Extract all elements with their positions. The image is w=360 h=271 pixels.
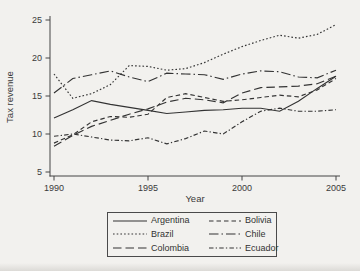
legend-item-bolivia: Bolivia [209,216,281,225]
legend-swatch-chile [209,230,241,238]
series-line-chile [54,70,336,93]
legend-swatch-brazil [113,230,147,238]
legend-swatch-ecuador [209,244,241,252]
x-axis-ticks: 1990199520002005 [44,176,346,193]
legend-item-chile: Chile [209,230,281,239]
y-tick-label: 25 [32,15,42,25]
series-line-argentina [54,76,336,118]
legend-swatch-bolivia [209,217,241,225]
x-tick-label: 2000 [232,183,252,193]
legend-label-brazil: Brazil [151,230,174,239]
legend-label-chile: Chile [245,230,266,239]
y-tick-label: 10 [32,129,42,139]
legend-swatch-colombia [113,244,147,252]
x-tick-label: 1995 [138,183,158,193]
tax-revenue-chart: 510152025 1990199520002005 Tax revenue Y… [0,0,360,210]
legend-item-brazil: Brazil [113,230,209,239]
scan-shadow [0,263,360,271]
legend-swatch-argentina [113,217,147,225]
x-tick-label: 2005 [326,183,346,193]
y-tick-label: 5 [37,167,42,177]
y-axis-title: Tax revenue [4,71,15,123]
legend: Argentina Brazil Colombia Bolivia Chile [107,212,277,257]
legend-label-ecuador: Ecuador [245,244,279,253]
legend-label-argentina: Argentina [151,216,190,225]
legend-item-ecuador: Ecuador [209,244,281,253]
y-axis-ticks: 510152025 [32,15,50,177]
series-line-ecuador [54,108,336,144]
legend-item-argentina: Argentina [113,216,209,225]
legend-label-colombia: Colombia [151,244,189,253]
y-tick-label: 15 [32,91,42,101]
legend-item-colombia: Colombia [113,244,209,253]
scanned-line-chart-figure: 510152025 1990199520002005 Tax revenue Y… [0,0,360,271]
y-tick-label: 20 [32,53,42,63]
series-lines [54,25,336,147]
x-tick-label: 1990 [44,183,64,193]
x-axis-title: Year [185,193,204,204]
legend-label-bolivia: Bolivia [245,216,272,225]
series-line-brazil [54,25,336,99]
